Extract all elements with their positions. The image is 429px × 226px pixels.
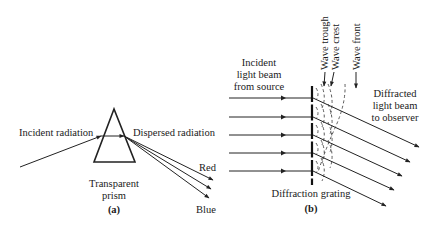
dispersed-radiation-label: Dispersed radiation [133,127,216,138]
wave-crest-label: Wave crest [330,24,341,70]
incident-beam-label-line2: light beam [237,69,282,80]
incident-rays [229,96,311,174]
wavelets [316,84,345,181]
incident-radiation-label: Incident radiation [19,127,94,138]
caption-b: (b) [305,203,318,215]
wave-trough-label: Wave trough [319,16,330,70]
diagram-canvas: Incident radiation Dispersed radiation R… [0,0,429,226]
red-label: Red [199,162,217,173]
wave-trough-pointer [324,72,325,86]
prism-label-line1: Transparent [89,178,139,189]
wave-crest-pointer [331,72,334,86]
diffraction-grating-label: Diffraction grating [272,188,352,199]
wave-front-label: Wave front [351,23,362,70]
panel-b-diffraction-grating: Wave trough Wave crest Wave front Incide… [229,16,419,215]
blue-label: Blue [196,204,216,215]
caption-a: (a) [108,204,121,216]
diffracted-beam-label-line2: light beam [373,100,418,111]
incident-beam-label-line3: from source [234,81,285,92]
incident-beam-label-line1: Incident [242,57,276,68]
diffracted-beam-label-line1: Diffracted [374,88,418,99]
incident-ray [20,136,101,167]
prism-label-line2: prism [102,190,126,201]
dispersed-ray-red [124,136,213,180]
diffracted-beam-label-line3: to observer [372,112,419,123]
panel-a-prism-dispersion: Incident radiation Dispersed radiation R… [19,109,217,216]
